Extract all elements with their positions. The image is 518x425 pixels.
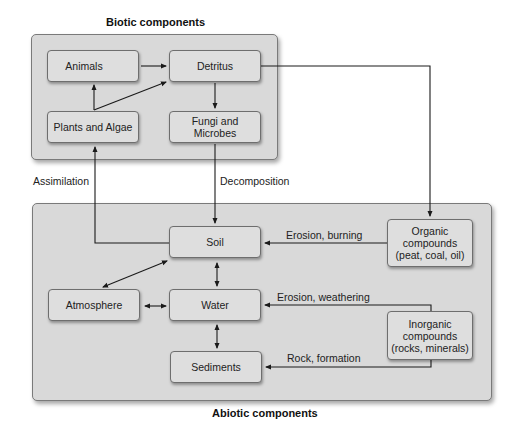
node-detritus: Detritus [169, 50, 261, 82]
node-atmosphere-label: Atmosphere [66, 299, 123, 311]
node-plants-label: Plants and Algae [54, 121, 133, 133]
node-animals: Animals [47, 50, 139, 82]
arrow-detritus-organic [261, 66, 430, 216]
arrow-plants-detritus [94, 82, 166, 110]
arrow-assimilation [95, 147, 169, 243]
node-detritus-label: Detritus [197, 60, 233, 72]
label-erosion-burning: Erosion, burning [286, 229, 362, 241]
label-assimilation: Assimilation [33, 175, 89, 187]
node-sediments: Sediments [170, 351, 262, 383]
node-fungi-label-1: Fungi and [192, 115, 239, 127]
label-decomposition: Decomposition [220, 175, 289, 187]
node-soil: Soil [169, 226, 261, 258]
node-inorganic-label-1: Inorganic [408, 318, 451, 330]
node-organic-label-3: (peat, coal, oil) [396, 249, 465, 261]
node-animals-label: Animals [65, 60, 102, 72]
arrow-soil-atmosphere [103, 261, 167, 287]
node-sediments-label: Sediments [191, 361, 241, 373]
node-water-label: Water [201, 299, 229, 311]
node-organic-label-1: Organic [412, 225, 449, 237]
node-water: Water [169, 289, 261, 321]
node-organic-compounds: Organic compounds (peat, coal, oil) [387, 219, 473, 267]
node-soil-label: Soil [206, 236, 224, 248]
node-inorganic-label-2: compounds [403, 330, 457, 342]
node-organic-label-2: compounds [403, 237, 457, 249]
node-fungi-microbes: Fungi and Microbes [169, 111, 261, 143]
node-inorganic-label-3: (rocks, minerals) [391, 342, 469, 354]
node-atmosphere: Atmosphere [48, 289, 140, 321]
label-erosion-weathering: Erosion, weathering [277, 291, 370, 303]
node-fungi-label-2: Microbes [194, 127, 237, 139]
label-rock-formation: Rock, formation [287, 352, 361, 364]
node-inorganic-compounds: Inorganic compounds (rocks, minerals) [387, 311, 473, 360]
node-plants-algae: Plants and Algae [47, 111, 139, 143]
